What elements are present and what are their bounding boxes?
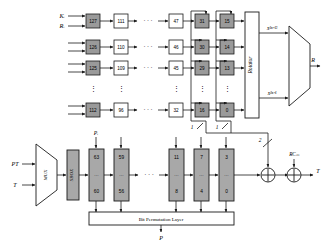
key-input-label: Kᵢ [58,12,64,19]
register-mid-value: … [119,172,124,177]
ellipsis-vertical: ⋮ [173,85,180,93]
key-cell-value: 127 [89,19,97,24]
round-input-label: Rᵢ [59,22,65,29]
rotator-label: Rotator [247,56,253,75]
key-cell-value: 29 [199,66,205,71]
key-cell-value: 110 [117,45,125,50]
ellipsis-horizontal: · · · [144,44,153,50]
register-bottom-value: 60 [94,189,100,194]
key-cell-value: 16 [199,108,205,113]
ellipsis-vertical: ⋮ [224,85,231,93]
register-bottom-value: 8 [175,189,178,194]
register-bottom-value: 56 [119,189,125,194]
key-cell-value: 13 [224,66,230,71]
bit-permutation-layer-label: Bit Permutation Layer [139,217,184,222]
rotator-output-high-label: X²ⁿ⁺¹³ [266,26,278,31]
ellipsis-vertical: ⋮ [90,85,97,93]
figure-canvas: Kᵢ Rᵢ 127 111 · · · 47 31 15 [0,0,323,243]
ellipsis-horizontal: · · · [144,107,153,113]
round-constant-label: RCₘ [288,151,300,157]
register-bottom-value: 0 [225,189,228,194]
key-cell-value: 96 [118,108,124,113]
input-mux-label: MUX [43,169,48,182]
register-bottom-value: 4 [200,189,203,194]
register-top-value: 63 [94,155,100,160]
key-cell-value: 46 [173,45,179,50]
key-cell-value: 109 [117,66,125,71]
register-top-value: 59 [119,155,125,160]
permutation-output-label: P [158,235,163,241]
key-cell-value: 0 [226,108,229,113]
key-cell-value: 125 [89,66,97,71]
key-cell-value: 14 [224,45,230,50]
feedback-width-label: 2 [259,137,262,143]
key-cell-value: 15 [224,19,230,24]
sbox-label: SBOX [69,168,74,181]
xor-roundconst-gate[interactable] [287,168,301,182]
register-top-value: 3 [225,155,228,160]
ellipsis-vertical: ⋮ [199,85,206,93]
rotator-output-low-label: X²ⁿ⁺¹ [266,91,277,96]
key-cell-value: 112 [89,108,97,113]
key-cell-value: 30 [199,45,205,50]
register-top-value: 7 [200,155,203,160]
block-diagram: Kᵢ Rᵢ 127 111 · · · 47 31 15 [0,0,323,243]
key-schedule-output-label: R [310,57,315,63]
register-mid-value: … [94,172,99,177]
tap-width-left: 1 [191,124,194,130]
ellipsis-vertical: ⋮ [118,85,125,93]
ellipsis-horizontal: · · · [144,65,153,71]
canvas-background [0,0,323,243]
register-mid-value: … [174,172,179,177]
key-cell-value: 45 [173,66,179,71]
ellipsis-horizontal: · · · [144,18,153,24]
tap-width-right: 1 [216,124,219,130]
register-top-value: 11 [174,155,179,160]
key-cell-value: 31 [199,19,205,24]
state-label: Pᵢ [93,130,98,136]
register-mid-value: … [199,172,204,177]
register-mid-value: … [224,172,229,177]
xor-key-gate[interactable] [261,168,275,182]
key-cell-value: 32 [173,108,179,113]
ellipsis-horizontal: · · · [144,171,154,178]
key-cell-value: 47 [173,19,179,24]
key-cell-value: 126 [89,45,97,50]
key-cell-value: 111 [118,19,125,24]
plaintext-input-label: PT [10,161,19,167]
